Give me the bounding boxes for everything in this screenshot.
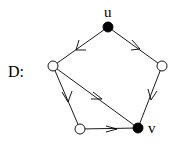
arrowheads — [62, 40, 157, 132]
node-label-v: v — [148, 120, 156, 136]
arrow-head-icon — [106, 126, 117, 132]
node-b — [157, 61, 167, 71]
node-label-u: u — [104, 4, 112, 20]
node-c — [75, 124, 85, 134]
node-a — [48, 61, 58, 71]
edges — [53, 27, 162, 129]
edge-c-v — [80, 128, 138, 129]
graph-label: D: — [8, 63, 24, 80]
edge-a-v — [53, 66, 138, 128]
node-u — [103, 22, 113, 32]
edge-u-a — [53, 27, 108, 66]
node-v — [133, 123, 143, 133]
edge-u-b — [108, 27, 162, 66]
directed-graph-diagram: D: u v — [0, 0, 178, 144]
nodes — [48, 22, 167, 134]
arrow-head-icon — [62, 91, 72, 102]
